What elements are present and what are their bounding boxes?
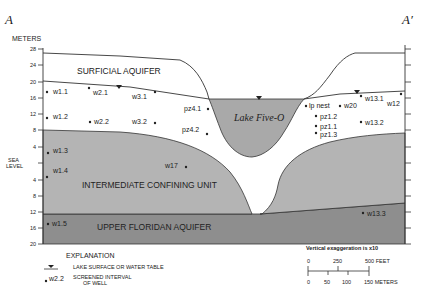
well-label: w13.3	[366, 210, 386, 217]
water-table-marker-icon	[116, 85, 122, 89]
well-label: lp nest	[309, 102, 330, 110]
well-label: pz4.1	[184, 105, 201, 113]
axis-title: METERS	[12, 35, 42, 42]
well-dot-icon	[154, 91, 156, 93]
legend-water-table-text: LAKE SURFACE OR WATER TABLE	[73, 264, 164, 270]
well-dot-icon	[47, 223, 49, 225]
well-label: w3.2	[131, 118, 147, 125]
sea-level-label-2: LEVEL	[6, 163, 23, 169]
well-dot-icon	[360, 95, 362, 97]
axis-tick-label: 8	[33, 193, 36, 199]
axis-tick-label: 16	[30, 225, 36, 231]
well-label: w3.1	[131, 93, 147, 100]
well-dot-icon	[206, 133, 208, 135]
axis-tick-label: 4	[33, 144, 36, 150]
well-dot-icon	[315, 132, 317, 134]
well-dot-icon	[47, 152, 49, 154]
upper-floridan-label: UPPER FLORIDAN AQUIFER	[97, 222, 211, 232]
well-dot-icon	[46, 176, 48, 178]
axis-tick-label: 20	[30, 79, 36, 85]
legend-well-example: w2.2	[48, 275, 64, 282]
well-label: w17	[164, 162, 178, 169]
scale-m-0: 0	[307, 279, 310, 285]
well-dot-icon	[400, 93, 402, 95]
well-dot-icon	[207, 108, 209, 110]
axis-tick-label: 16	[30, 95, 36, 101]
well-dot-icon	[88, 87, 90, 89]
well-dot-icon	[46, 91, 48, 93]
well-label: w2.2	[93, 118, 109, 125]
well-dot-icon	[315, 125, 317, 127]
well-label: w1.5	[51, 220, 67, 227]
well-dot-icon	[315, 115, 317, 117]
confining-unit-left	[43, 130, 252, 214]
axis-tick-label: 24	[30, 62, 36, 68]
well-label: w13.2	[364, 119, 384, 126]
well-dot-icon	[154, 122, 156, 124]
axis-tick-label: 4	[33, 177, 36, 183]
vertical-exaggeration-note: Vertical exaggeration is x10	[306, 245, 378, 251]
confining-unit-right	[260, 133, 405, 214]
scale-m-50: 50	[324, 279, 330, 285]
explanation-title: EXPLANATION	[66, 252, 115, 259]
scale-feet-250: 250	[333, 258, 342, 264]
well-dot-icon	[305, 105, 307, 107]
well-label: pz1.2	[320, 113, 337, 121]
legend-well-desc-2: OF WELL	[83, 280, 107, 286]
scale-bar	[308, 266, 369, 276]
axis-tick-label: 12	[30, 209, 36, 215]
scale-feet-0: 0	[307, 258, 310, 264]
well-label: pz1.3	[320, 131, 337, 139]
lake-label: Lake Five-O	[233, 112, 284, 123]
well-label: pz1.1	[320, 123, 337, 131]
cross-section-diagram: 28242016128448121620 A A′ METERS SEA LEV…	[0, 0, 428, 295]
axis-tick-label: 28	[30, 46, 36, 52]
well-label: w1.1	[52, 88, 68, 95]
well-label: w1.4	[52, 167, 68, 174]
well-dot-icon	[360, 121, 362, 123]
confining-unit-label: INTERMEDIATE CONFINING UNIT	[82, 180, 217, 190]
section-start-label: A	[4, 12, 13, 27]
well-label: w20	[343, 102, 357, 109]
well-label: pz4.2	[182, 126, 199, 134]
axis-tick-label: 12	[30, 111, 36, 117]
scale-m-100: 100	[342, 279, 351, 285]
axis-tick-labels: 28242016128448121620	[30, 46, 36, 247]
section-end-label: A′	[401, 12, 413, 27]
scale-feet-500: 500 FEET	[365, 258, 390, 264]
well-label: w1.3	[52, 147, 68, 154]
legend-water-table-icon	[48, 265, 54, 268]
axis-tick-label: 20	[30, 241, 36, 247]
well-dot-icon	[362, 212, 364, 214]
surficial-aquifer-label: SURFICIAL AQUIFER	[77, 66, 161, 76]
well-dot-icon	[46, 117, 48, 119]
scale-m-150: 150 METERS	[364, 279, 398, 285]
well-dot-icon	[339, 105, 341, 107]
well-label: w13.1	[364, 95, 384, 102]
axis-tick-label: 8	[33, 127, 36, 133]
legend-well-dot-icon	[45, 280, 47, 282]
well-label: w12	[386, 100, 400, 107]
well-dot-icon	[185, 166, 187, 168]
well-label: w2.1	[92, 89, 108, 96]
well-label: w1.2	[52, 113, 68, 120]
lake-five-o	[209, 99, 304, 157]
well-dot-icon	[89, 121, 91, 123]
